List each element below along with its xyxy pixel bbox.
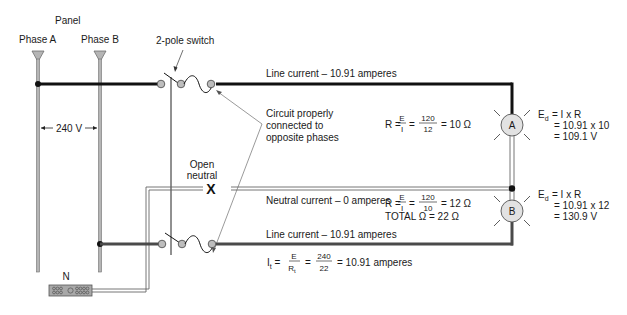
svg-text:Ed: Ed: [538, 109, 549, 122]
svg-text:Circuit properly: Circuit properly: [266, 108, 333, 119]
top-switch-pole: [157, 73, 215, 93]
svg-text:240: 240: [317, 252, 331, 261]
open-neutral: Open neutral X: [187, 159, 218, 197]
svg-text:= 109.1 V: = 109.1 V: [554, 131, 597, 142]
split-circuit-diagram: Panel Phase A Phase B 240 V 2-pole switc…: [0, 0, 627, 315]
svg-text:=: =: [409, 119, 415, 130]
lamp-a-resistance-formula: R = E I = 120 12 = 10 Ω: [385, 114, 472, 134]
svg-text:I: I: [401, 125, 403, 134]
svg-text:N: N: [62, 271, 69, 282]
svg-text:120: 120: [421, 193, 435, 202]
svg-text:E: E: [399, 114, 404, 123]
svg-text:Ed: Ed: [538, 189, 549, 202]
svg-text:= 12 Ω: = 12 Ω: [441, 198, 472, 209]
svg-text:120: 120: [421, 114, 435, 123]
svg-text:E: E: [399, 193, 404, 202]
lamp-b-resistance-formula: R = E I = 120 10 = 12 Ω TOTAL Ω = 22 Ω: [385, 193, 472, 222]
svg-text:neutral: neutral: [187, 170, 218, 181]
lamp-series-link: [509, 135, 515, 205]
svg-text:= I x R: = I x R: [552, 189, 581, 200]
lamp-b: B: [494, 196, 530, 226]
svg-text:B: B: [509, 206, 516, 217]
phase-a-label: Phase A: [19, 34, 57, 45]
svg-text:= 130.9 V: = 130.9 V: [554, 211, 597, 222]
total-resistance: TOTAL Ω = 22 Ω: [385, 211, 459, 222]
svg-text:= 10.91 x 12: = 10.91 x 12: [554, 200, 610, 211]
switch-leader: [175, 50, 183, 70]
lamp-a: A: [494, 110, 530, 140]
voltage-dimension: 240 V: [41, 123, 97, 134]
svg-text:Open: Open: [190, 159, 214, 170]
svg-text:= 10 Ω: = 10 Ω: [441, 119, 472, 130]
top-line-current: Line current – 10.91 amperes: [266, 68, 397, 79]
svg-text:= I x R: = I x R: [552, 109, 581, 120]
open-neutral-x-icon: X: [206, 181, 216, 197]
switch-label: 2-pole switch: [156, 35, 214, 46]
neutral-bar: N: [49, 271, 92, 296]
neutral-current: Neutral current – 0 amperes: [266, 195, 391, 206]
svg-text:Rt: Rt: [288, 264, 296, 274]
bottom-switch-pole: [158, 233, 216, 253]
svg-text:connected to: connected to: [266, 120, 324, 131]
panel-title: Panel: [55, 15, 81, 26]
phase-b-label: Phase B: [81, 34, 119, 45]
svg-text:12: 12: [424, 125, 433, 134]
bottom-line-current: Line current – 10.91 amperes: [266, 229, 397, 240]
svg-text:= 10.91 amperes: = 10.91 amperes: [337, 257, 412, 268]
svg-text:=: =: [409, 198, 415, 209]
total-current-formula: It = E Rt = 240 22 = 10.91 amperes: [267, 252, 412, 274]
svg-text:= 10.91 x 10: = 10.91 x 10: [554, 120, 610, 131]
svg-text:opposite phases: opposite phases: [266, 132, 339, 143]
svg-text:=: =: [305, 257, 311, 268]
voltage-label: 240 V: [56, 123, 82, 134]
lamp-a-voltage-drop: Ed = I x R = 10.91 x 10 = 109.1 V: [538, 109, 610, 142]
svg-text:E: E: [291, 252, 296, 261]
svg-text:A: A: [509, 120, 516, 131]
lamp-b-voltage-drop: Ed = I x R = 10.91 x 12 = 130.9 V: [538, 189, 610, 222]
svg-text:It =: It =: [267, 257, 281, 270]
svg-text:22: 22: [320, 264, 329, 273]
